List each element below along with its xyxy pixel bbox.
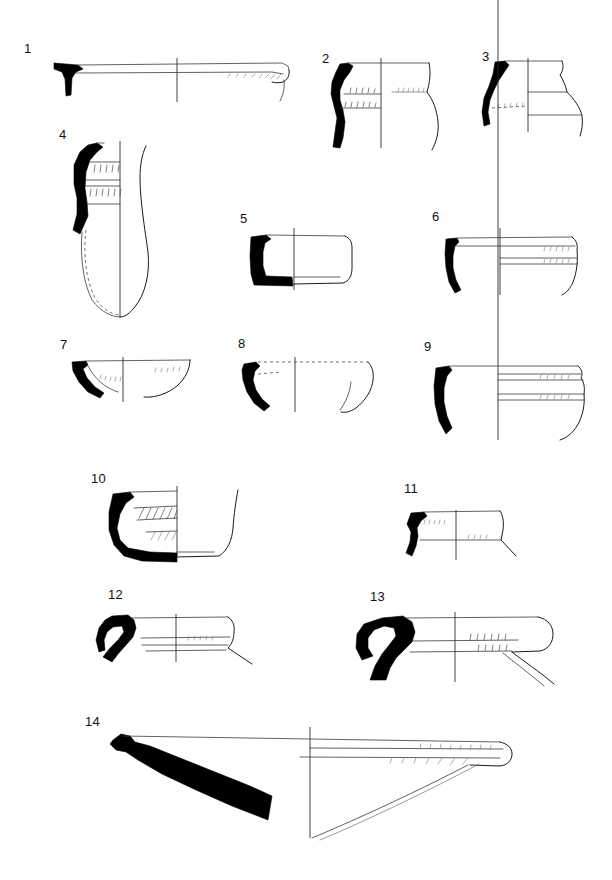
figure-9-ribbed-bowl [434, 0, 584, 440]
figure-12-hooked-rim-basin [96, 614, 252, 664]
figure-label-12: 12 [108, 588, 123, 601]
figure-7-shallow-bowl [72, 357, 190, 402]
figure-label-6: 6 [432, 210, 439, 223]
figure-label-13: 13 [370, 590, 385, 603]
figure-10-hatched-bowl [109, 486, 238, 562]
figure-label-3: 3 [482, 50, 489, 63]
pottery-plate: 1 2 3 4 5 6 7 8 9 10 11 12 13 14 [0, 0, 612, 880]
figure-label-7: 7 [60, 338, 67, 351]
figure-label-10: 10 [91, 472, 106, 485]
figure-label-11: 11 [404, 482, 418, 495]
plate-drawing [0, 0, 612, 880]
figure-label-1: 1 [24, 42, 31, 55]
figure-2-jar-neck [331, 58, 438, 150]
figure-4-tall-beaker [73, 141, 148, 317]
figure-label-14: 14 [85, 715, 100, 728]
figure-8-small-cup [242, 357, 373, 412]
figure-1-shallow-platter-rim [54, 58, 289, 102]
figure-5-straight-sided-cup [250, 228, 352, 290]
figure-3-carinated-jar [482, 58, 582, 136]
figure-6-bowl-grooved-rim [445, 228, 577, 295]
figure-label-4: 4 [59, 128, 66, 141]
figure-14-large-platter [110, 727, 512, 840]
figure-label-2: 2 [322, 52, 329, 65]
figure-label-8: 8 [238, 337, 245, 350]
figure-13-rolled-rim-basin [356, 612, 554, 686]
figure-11-ledge-rim-bowl [406, 510, 516, 560]
figure-label-9: 9 [424, 340, 431, 353]
figure-label-5: 5 [240, 212, 247, 225]
